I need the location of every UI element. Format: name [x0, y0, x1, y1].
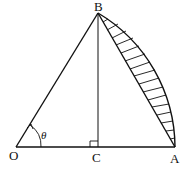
- right-angle-marker: [90, 141, 98, 147]
- sector-diagram: B O C A θ: [0, 0, 190, 170]
- label-theta: θ: [41, 129, 47, 141]
- label-O: O: [9, 148, 18, 163]
- label-B: B: [94, 0, 103, 14]
- hatch-shading: [103, 19, 175, 139]
- label-C: C: [92, 150, 101, 165]
- chord-BA: [98, 13, 175, 147]
- angle-arc-theta: [30, 125, 41, 147]
- label-A: A: [170, 151, 180, 166]
